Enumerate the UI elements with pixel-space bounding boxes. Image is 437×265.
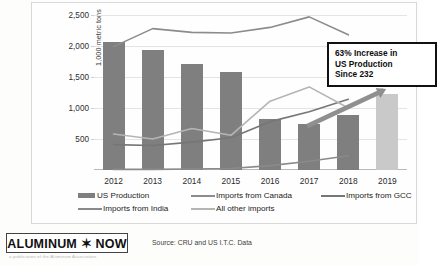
legend-label: US Production (97, 191, 149, 200)
y-axis-tick-label: 1,000 (55, 104, 89, 113)
legend-item[interactable]: Imports from GCC (321, 191, 412, 200)
growth-arrow (307, 88, 386, 126)
callout-box: 63% Increase in US Production Since 232 (327, 42, 437, 87)
line-all-other-imports (114, 87, 349, 139)
x-axis-tick-label: 2017 (289, 176, 329, 186)
legend-swatch-block (78, 193, 95, 198)
callout-line-3: Since 232 (335, 69, 430, 80)
y-axis-tick-label: 500 (55, 135, 89, 144)
callout-line-2: US Production (335, 59, 430, 70)
chart-frame: 1,000 metric tons 5001,0001,5002,0002,50… (31, 2, 417, 224)
legend-row-1: US ProductionImports from CanadaImports … (78, 191, 408, 204)
callout-line-1: 63% Increase in (335, 48, 430, 59)
x-axis-tick-label: 2016 (250, 176, 290, 186)
line-imports-from-india (114, 156, 349, 170)
legend-swatch-line (191, 195, 215, 197)
x-axis-tick-label: 2013 (133, 176, 173, 186)
legend-swatch-line (321, 195, 345, 197)
aluminum-now-logo: ALUMINUM ✶ NOW (6, 233, 128, 253)
x-axis-tick-label: 2018 (328, 176, 368, 186)
chart-legend: US ProductionImports from CanadaImports … (78, 191, 408, 217)
logo-text: ALUMINUM ✶ NOW (7, 236, 126, 251)
legend-swatch-line (191, 208, 215, 210)
legend-swatch-line (78, 208, 102, 210)
line-series-layer (94, 15, 407, 170)
legend-row-2: Imports from IndiaAll other imports (78, 204, 408, 217)
legend-item[interactable]: All other imports (191, 204, 274, 213)
y-axis-tick-label: 2,000 (55, 42, 89, 51)
x-axis-tick-label: 2019 (367, 176, 407, 186)
legend-label: Imports from GCC (346, 191, 412, 200)
legend-label: Imports from India (103, 204, 168, 213)
legend-item[interactable]: Imports from India (78, 204, 168, 213)
legend-item[interactable]: US Production (78, 191, 149, 200)
source-note: Source: CRU and US I.T.C. Data (152, 239, 252, 246)
logo-subtext: a publication of the Aluminum Associatio… (9, 254, 96, 259)
y-axis-tick-label: 1,500 (55, 73, 89, 82)
legend-item[interactable]: Imports from Canada (191, 191, 292, 200)
x-axis-tick-label: 2012 (94, 176, 134, 186)
plot-area: 1,000 metric tons 5001,0001,5002,0002,50… (94, 15, 407, 170)
legend-label: All other imports (216, 204, 274, 213)
line-imports-from-canada (114, 17, 349, 47)
x-axis-tick-label: 2014 (172, 176, 212, 186)
x-axis-tick-label: 2015 (211, 176, 251, 186)
legend-label: Imports from Canada (216, 191, 292, 200)
y-axis-tick-label: 2,500 (55, 11, 89, 20)
